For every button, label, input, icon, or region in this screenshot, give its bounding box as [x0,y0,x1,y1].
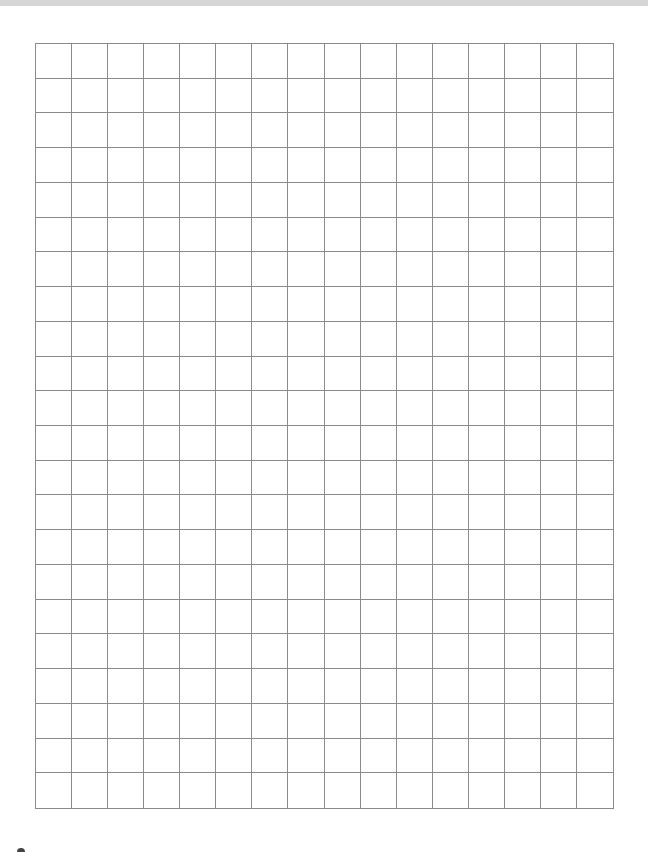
grid-cell [469,322,505,357]
grid-cell [144,669,180,704]
grid-cell [216,252,252,287]
grid-cell [108,530,144,565]
grid-cell [144,44,180,79]
grid-cell [288,287,324,322]
grid-cell [541,426,577,461]
grid-cell [541,600,577,635]
grid-cell [505,773,541,808]
graph-paper-grid [35,43,614,809]
grid-cell [108,79,144,114]
grid-cell [288,773,324,808]
grid-cell [577,357,613,392]
grid-cell [505,565,541,600]
grid-cell [144,148,180,183]
grid-cell [108,391,144,426]
grid-cell [36,79,72,114]
grid-cell [577,113,613,148]
grid-cell [72,669,108,704]
grid-cell [216,218,252,253]
grid-cell [361,252,397,287]
grid-cell [361,565,397,600]
grid-cell [216,183,252,218]
grid-cell [541,565,577,600]
grid-cell [397,773,433,808]
grid-cell [325,495,361,530]
grid-cell [72,391,108,426]
grid-cell [108,287,144,322]
grid-cell [397,530,433,565]
grid-cell [541,44,577,79]
grid-cell [433,357,469,392]
grid-cell [469,461,505,496]
grid-cell [36,773,72,808]
grid-cell [433,252,469,287]
grid-cell [252,148,288,183]
grid-cell [288,426,324,461]
grid-cell [325,426,361,461]
grid-cell [108,739,144,774]
grid-cell [361,600,397,635]
grid-cell [577,530,613,565]
grid-cell [361,79,397,114]
grid-cell [180,148,216,183]
grid-cell [325,391,361,426]
grid-cell [144,704,180,739]
grid-cell [144,252,180,287]
grid-cell [397,495,433,530]
grid-cell [108,252,144,287]
grid-cell [288,600,324,635]
grid-cell [108,148,144,183]
grid-cell [36,113,72,148]
grid-cell [397,739,433,774]
grid-cell [108,183,144,218]
grid-cell [577,773,613,808]
grid-cell [288,495,324,530]
grid-cell [433,322,469,357]
grid-cell [180,113,216,148]
grid-cell [108,44,144,79]
grid-cell [577,461,613,496]
grid-cell [216,495,252,530]
grid-cell [72,739,108,774]
grid-cell [216,704,252,739]
grid-cell [325,252,361,287]
grid-cell [252,600,288,635]
grid-cell [541,79,577,114]
grid-cell [577,704,613,739]
grid-cell [108,357,144,392]
grid-cell [505,183,541,218]
grid-cell [577,565,613,600]
grid-cell [541,252,577,287]
grid-cell [36,426,72,461]
grid-cell [288,739,324,774]
grid-cell [397,148,433,183]
grid-cell [72,113,108,148]
grid-cell [433,148,469,183]
grid-cell [361,461,397,496]
grid-cell [469,600,505,635]
grid-cell [469,634,505,669]
grid-cell [36,600,72,635]
grid-cell [325,634,361,669]
grid-cell [144,600,180,635]
grid-cell [433,530,469,565]
grid-cell [577,218,613,253]
grid-cell [180,600,216,635]
grid-cell [180,252,216,287]
grid-cell [144,426,180,461]
grid-cell [72,79,108,114]
grid-cell [397,322,433,357]
grid-cell [252,322,288,357]
grid-cell [325,113,361,148]
grid-cell [216,113,252,148]
grid-cell [72,44,108,79]
grid-cell [541,739,577,774]
grid-cell [180,495,216,530]
grid-cell [216,79,252,114]
grid-cell [252,495,288,530]
grid-cell [325,565,361,600]
grid-cell [144,113,180,148]
grid-cell [505,391,541,426]
grid-cell [144,79,180,114]
grid-cell [325,600,361,635]
